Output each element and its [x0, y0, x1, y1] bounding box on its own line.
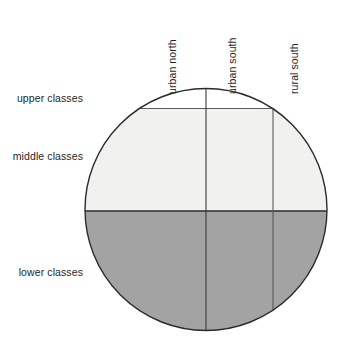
column-label-urban-south-text: urban south	[226, 37, 238, 94]
row-label-middle-classes: middle classes	[0, 150, 83, 162]
column-label-urban-north-text: urban north	[166, 39, 178, 94]
column-label-rural-south: rural south	[289, 43, 300, 94]
row-label-middle-classes-text: middle classes	[13, 150, 83, 162]
band-lower-classes	[80, 211, 336, 337]
band-middle-classes	[80, 108, 336, 211]
column-label-urban-north: urban north	[167, 39, 178, 94]
row-label-upper-classes: upper classes	[0, 92, 83, 104]
class-structure-diagram: urban north urban south rural south uppe…	[0, 0, 340, 348]
column-label-urban-south: urban south	[227, 37, 238, 94]
row-label-upper-classes-text: upper classes	[17, 92, 83, 104]
row-label-lower-classes: lower classes	[0, 266, 83, 278]
row-label-lower-classes-text: lower classes	[19, 266, 83, 278]
column-label-rural-south-text: rural south	[288, 43, 300, 94]
